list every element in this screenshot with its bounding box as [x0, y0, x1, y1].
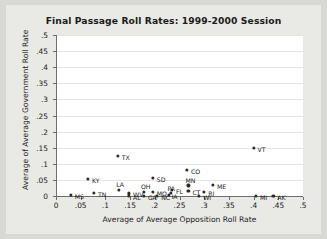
y-axis-tick	[53, 180, 56, 181]
y-axis-tick	[53, 116, 56, 117]
gridline-horizontal	[56, 116, 303, 117]
y-axis-tick-label: .35	[24, 79, 48, 88]
gridline-horizontal	[56, 148, 303, 149]
y-axis-tick-label: .15	[24, 143, 48, 152]
chart-title: Final Passage Roll Rates: 1999-2000 Sess…	[6, 15, 321, 26]
chart-figure: Final Passage Roll Rates: 1999-2000 Sess…	[0, 0, 327, 239]
data-point-label: ME	[217, 183, 226, 190]
y-axis-tick	[53, 164, 56, 165]
y-axis-tick-label: .3	[24, 95, 48, 104]
x-axis-tick-label: .4	[241, 201, 267, 210]
x-axis-tick-label: .5	[290, 201, 316, 210]
y-axis-tick-label: .45	[24, 47, 48, 56]
x-axis-tick	[130, 197, 131, 200]
x-axis-tick-label: 0	[43, 201, 69, 210]
y-axis-tick-label: .4	[24, 63, 48, 72]
y-axis-tick	[53, 83, 56, 84]
x-axis-tick	[180, 197, 181, 200]
chart-inner-panel: Final Passage Roll Rates: 1999-2000 Sess…	[6, 5, 321, 234]
y-axis-tick-label: .05	[24, 175, 48, 184]
x-axis-tick-label: .35	[216, 201, 242, 210]
x-axis-tick-label: .1	[92, 201, 118, 210]
data-point-label: MI	[260, 194, 267, 201]
gridline-horizontal	[56, 51, 303, 52]
data-point	[156, 194, 159, 197]
x-axis-tick-label: .3	[191, 201, 217, 210]
y-axis-tick-label: .2	[24, 127, 48, 136]
gridline-horizontal	[56, 132, 303, 133]
data-point-label: FL	[176, 188, 183, 195]
data-point-label: SD	[157, 176, 166, 183]
data-point-label: MS	[75, 193, 84, 200]
gridline-horizontal	[56, 35, 303, 36]
data-point-label: OH	[141, 183, 150, 190]
x-axis-tick	[56, 197, 57, 200]
data-point-label: TN	[98, 191, 106, 198]
data-point-label: CO	[191, 168, 200, 175]
x-axis-tick-label: .15	[117, 201, 143, 210]
data-point	[272, 194, 275, 197]
x-axis-tick-label: .45	[265, 201, 291, 210]
x-axis-title: Average of Average Opposition Roll Rate	[56, 215, 303, 224]
y-axis-tick	[53, 99, 56, 100]
y-axis-tick	[53, 67, 56, 68]
gridline-horizontal	[56, 67, 303, 68]
y-axis-tick	[53, 51, 56, 52]
data-point-label: LA	[116, 181, 124, 188]
data-point	[254, 194, 257, 197]
x-axis-tick-label: .2	[142, 201, 168, 210]
y-axis-tick-label: 0	[24, 192, 48, 201]
y-axis-tick-label: .1	[24, 159, 48, 168]
gridline-horizontal	[56, 83, 303, 84]
y-axis-tick	[53, 148, 56, 149]
plot-area	[56, 35, 303, 196]
x-axis-tick-label: .25	[167, 201, 193, 210]
data-point	[142, 194, 145, 197]
y-axis-line	[56, 35, 57, 196]
x-axis-tick-label: .05	[68, 201, 94, 210]
x-axis-tick	[254, 197, 255, 200]
data-point-label: TX	[122, 154, 130, 161]
y-axis-tick	[53, 132, 56, 133]
y-axis-tick-label: .25	[24, 111, 48, 120]
y-axis-tick-label: .5	[24, 31, 48, 40]
x-axis-tick	[229, 197, 230, 200]
x-axis-tick	[303, 197, 304, 200]
data-point	[198, 194, 201, 197]
data-point-label: MN	[185, 177, 195, 184]
data-point-label: AK	[277, 194, 285, 201]
gridline-horizontal	[56, 164, 303, 165]
data-point-label: VT	[258, 146, 266, 153]
data-point-label: RI	[208, 190, 214, 197]
data-point-label: AL	[133, 194, 140, 201]
data-point-label: KY	[92, 177, 99, 184]
gridline-horizontal	[56, 99, 303, 100]
y-axis-tick	[53, 35, 56, 36]
